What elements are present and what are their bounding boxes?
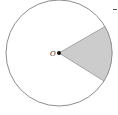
- circle-sector-diagram: O: [0, 0, 118, 115]
- center-label: O: [50, 50, 56, 58]
- center-point: [57, 51, 61, 55]
